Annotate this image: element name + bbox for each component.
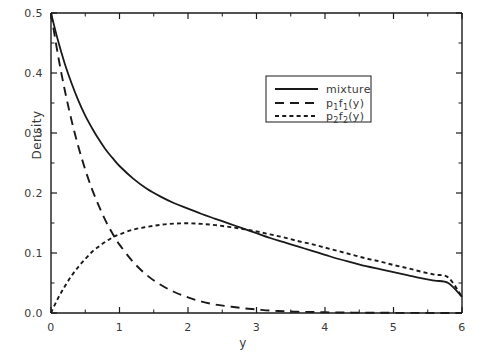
data-series-group xyxy=(51,13,462,313)
x-tick-label: 2 xyxy=(184,321,191,334)
x-tick-label: 4 xyxy=(321,321,328,334)
series-line-p2f2y xyxy=(51,223,462,313)
x-tick-label: 0 xyxy=(47,321,54,334)
x-axis-ticks xyxy=(51,13,462,313)
axis-frame xyxy=(51,13,462,313)
series-line-p1f1y xyxy=(51,13,462,313)
y-tick-label: 0.5 xyxy=(24,7,43,20)
y-tick-label: 0.1 xyxy=(24,247,43,260)
x-tick-label: 6 xyxy=(458,321,465,334)
legend-label-mixture: mixture xyxy=(326,83,371,96)
y-axis-tick-labels: 0.00.10.20.30.40.5 xyxy=(24,7,43,320)
chart-legend: mixturep1f1(y)p2f2(y) xyxy=(266,76,371,125)
y-tick-label: 0.4 xyxy=(24,67,43,80)
y-axis-ticks xyxy=(51,13,462,313)
x-tick-label: 1 xyxy=(116,321,123,334)
x-axis-tick-labels: 0123456 xyxy=(47,321,465,334)
plot-area: 0123456 0.00.10.20.30.40.5 mixturep1f1(y… xyxy=(0,0,486,360)
y-tick-label: 0.3 xyxy=(24,127,43,140)
series-line-mixture xyxy=(51,13,462,297)
x-tick-label: 5 xyxy=(390,321,397,334)
x-tick-label: 3 xyxy=(253,321,260,334)
y-tick-label: 0.2 xyxy=(24,187,43,200)
y-tick-label: 0.0 xyxy=(24,307,43,320)
density-mixture-chart: Density y 0123456 0.00.10.20.30.40.5 mix… xyxy=(0,0,486,360)
